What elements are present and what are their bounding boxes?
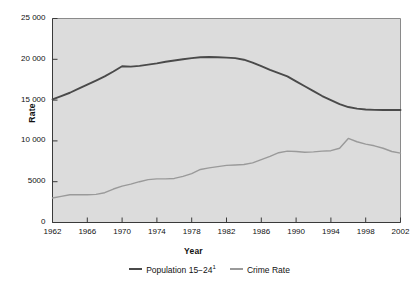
legend-item-population[interactable]: Population 15−241 — [129, 264, 216, 275]
y-tick-label: 25 000 — [0, 13, 46, 22]
legend-label: Population 15−241 — [146, 265, 216, 275]
legend-line-icon — [129, 268, 142, 270]
y-axis-title: Rate — [27, 83, 37, 143]
legend-item-crime-rate[interactable]: Crime Rate — [230, 264, 290, 275]
plot-area-background — [53, 19, 401, 223]
x-axis-title-text: Year — [184, 246, 203, 256]
y-tick-label: 0 — [0, 217, 46, 226]
y-tick-label: 5000 — [0, 176, 46, 185]
chart-legend: Population 15−241Crime Rate — [0, 264, 419, 275]
x-tick-label: 2002 — [381, 227, 419, 236]
y-tick-label: 20 000 — [0, 54, 46, 63]
y-tick-label: 15 000 — [0, 95, 46, 104]
x-axis-title: Year — [0, 246, 419, 256]
line-chart: Rate Year 0500010 00015 00020 00025 000 … — [0, 0, 419, 289]
legend-line-icon — [230, 268, 243, 270]
legend-footnote-marker: 1 — [213, 265, 216, 271]
y-tick-label: 10 000 — [0, 135, 46, 144]
legend-label: Crime Rate — [247, 265, 290, 275]
